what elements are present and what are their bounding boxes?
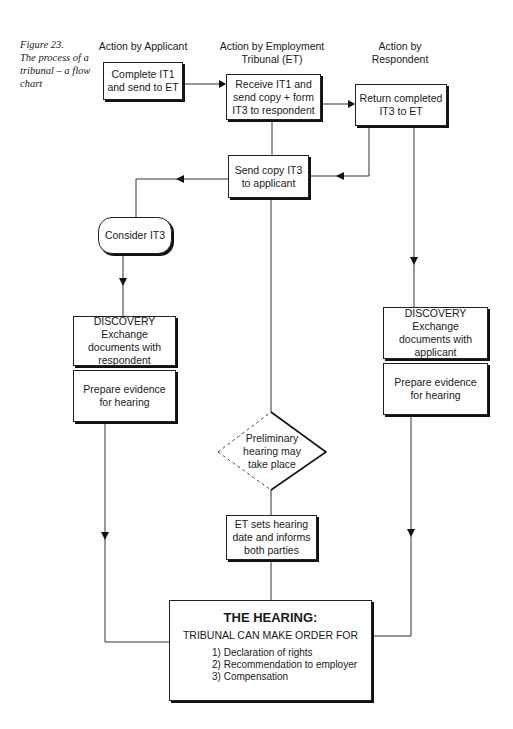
node-complete-it1: Complete IT1 and send to ET [103, 62, 183, 100]
node-label: Consider IT3 [105, 229, 165, 242]
line-applicant-to-hearing [105, 423, 169, 642]
node-the-hearing: THE HEARING: TRIBUNAL CAN MAKE ORDER FOR… [169, 600, 372, 701]
node-label: Send copy IT3 to applicant [232, 164, 305, 190]
node-label: Return completed IT3 to ET [359, 92, 443, 118]
node-consider-it3: Consider IT3 [98, 217, 172, 254]
column-heading-tribunal: Action by Employment Tribunal (ET) [210, 40, 334, 66]
node-send-copy-it3: Send copy IT3 to applicant [228, 155, 309, 198]
arrowhead [410, 257, 418, 265]
hearing-title: THE HEARING: [170, 610, 371, 625]
figure-caption: Figure 23. The process of a tribunal – a… [20, 38, 100, 90]
node-receive-it1: Receive IT1 and send copy + form IT3 to … [226, 74, 321, 120]
flowchart-canvas: Figure 23. The process of a tribunal – a… [0, 0, 513, 729]
arrowhead [407, 529, 415, 537]
column-heading-respondent: Action by Respondent [350, 40, 450, 66]
arrowhead [119, 278, 127, 286]
figure-number: Figure 23. [20, 38, 100, 51]
node-return-it3: Return completed IT3 to ET [355, 84, 447, 126]
node-label: ET sets hearing date and informs both pa… [230, 518, 313, 557]
arrowhead [101, 532, 109, 540]
node-prepare-applicant: Prepare evidence for hearing [73, 370, 176, 422]
hearing-order-item: 2) Recommendation to employer [212, 659, 357, 671]
node-label: Exchange documents with applicant [387, 320, 484, 359]
node-preliminary-hearing: Preliminary hearing may take place [236, 432, 308, 471]
node-title: DISCOVERY [405, 307, 467, 320]
node-label: Prepare evidence for hearing [387, 376, 484, 402]
hearing-subtitle: TRIBUNAL CAN MAKE ORDER FOR [170, 629, 371, 641]
line-respondent-to-hearing [374, 416, 411, 636]
figure-title: The process of a tribunal – a flow chart [20, 51, 100, 90]
hearing-order-item: 3) Compensation [212, 671, 357, 683]
arrowhead [176, 175, 184, 183]
column-heading-applicant: Action by Applicant [98, 40, 188, 53]
node-discovery-applicant: DISCOVERY Exchange documents with respon… [73, 316, 176, 366]
hearing-orders-list: 1) Declaration of rights 2) Recommendati… [212, 647, 357, 683]
line-send-to-consider [136, 179, 228, 217]
arrowhead [336, 172, 344, 180]
node-label: Receive IT1 and send copy + form IT3 to … [230, 78, 317, 117]
node-label: Exchange documents with respondent [77, 328, 172, 367]
node-title: DISCOVERY [94, 315, 156, 328]
node-label: Prepare evidence for hearing [77, 383, 172, 409]
node-et-sets-date: ET sets hearing date and informs both pa… [226, 515, 317, 560]
hearing-order-item: 1) Declaration of rights [212, 647, 357, 659]
line-return-to-send [310, 127, 369, 176]
node-label: Complete IT1 and send to ET [107, 68, 179, 94]
node-prepare-respondent: Prepare evidence for hearing [383, 363, 488, 415]
node-discovery-respondent: DISCOVERY Exchange documents with applic… [383, 307, 488, 359]
